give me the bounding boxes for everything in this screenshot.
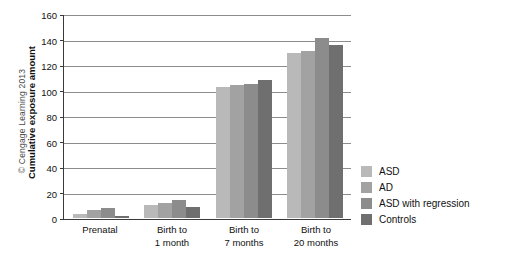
chart-plot-area: 020406080100120140160	[63, 15, 351, 220]
y-axis-tick-label: 0	[52, 214, 57, 225]
bar-group	[65, 15, 137, 218]
x-axis-label-line: Birth to	[280, 224, 352, 237]
bars-layer	[65, 15, 351, 218]
y-axis-tick-label: 60	[46, 137, 57, 148]
legend-label: ASD with regression	[379, 198, 470, 209]
x-axis-label-line: 1 month	[136, 237, 208, 250]
legend-swatch	[361, 198, 372, 209]
bar-fill	[258, 80, 272, 218]
bar-fill	[115, 216, 129, 218]
bar-fill	[315, 38, 329, 218]
bar[interactable]	[315, 38, 329, 218]
y-axis-tick	[60, 91, 64, 92]
bar-fill	[144, 205, 158, 218]
x-axis-label-line: Prenatal	[64, 224, 136, 237]
y-axis-tick	[60, 40, 64, 41]
legend-label: AD	[379, 182, 393, 193]
bar[interactable]	[158, 203, 172, 218]
bar-group	[280, 15, 352, 218]
bar[interactable]	[101, 208, 115, 218]
bar[interactable]	[186, 207, 200, 218]
y-axis-tick-label: 140	[41, 35, 57, 46]
bar[interactable]	[87, 210, 101, 218]
bar[interactable]	[230, 85, 244, 218]
legend-item[interactable]: Controls	[361, 212, 503, 227]
bar[interactable]	[73, 214, 87, 218]
legend-label: Controls	[379, 214, 416, 225]
legend-label: ASD	[379, 166, 400, 177]
x-axis-label-line: 20 months	[280, 237, 352, 250]
x-axis-category-label: Birth to1 month	[136, 224, 208, 249]
y-axis-tick	[60, 142, 64, 143]
x-axis-label-line: Birth to	[136, 224, 208, 237]
bar[interactable]	[329, 45, 343, 218]
y-axis-tick-label: 100	[41, 86, 57, 97]
bar[interactable]	[144, 205, 158, 218]
bar[interactable]	[301, 51, 315, 218]
copyright-rail: © Cengage Learning 2013	[0, 0, 22, 277]
bar[interactable]	[244, 84, 258, 218]
bar[interactable]	[115, 216, 129, 218]
bar[interactable]	[287, 53, 301, 218]
y-axis-tick	[60, 15, 64, 16]
y-axis-tick	[60, 117, 64, 118]
x-axis-category-label: Birth to20 months	[280, 224, 352, 249]
bar-fill	[172, 200, 186, 218]
legend-swatch	[361, 166, 372, 177]
bar-fill	[329, 45, 343, 218]
bar-fill	[244, 84, 258, 218]
bar-fill	[186, 207, 200, 218]
x-axis-label-line: Birth to	[208, 224, 280, 237]
bar-fill	[158, 203, 172, 218]
bar[interactable]	[216, 87, 230, 218]
x-axis-label-line: 7 months	[208, 237, 280, 250]
y-axis-tick	[60, 66, 64, 67]
legend-swatch	[361, 214, 372, 225]
x-axis-category-label: Prenatal	[64, 224, 136, 249]
y-axis-tick-label: 40	[46, 163, 57, 174]
bar[interactable]	[172, 200, 186, 218]
bar-fill	[73, 214, 87, 218]
bar[interactable]	[258, 80, 272, 218]
x-axis-labels: PrenatalBirth to1 monthBirth to7 monthsB…	[64, 224, 352, 249]
y-axis-tick-label: 20	[46, 188, 57, 199]
plot-frame: 020406080100120140160	[63, 15, 351, 220]
bar-fill	[301, 51, 315, 218]
bar-fill	[87, 210, 101, 218]
y-axis-tick-label: 160	[41, 10, 57, 21]
legend-item[interactable]: AD	[361, 180, 503, 195]
legend-swatch	[361, 182, 372, 193]
y-axis-tick-label: 120	[41, 61, 57, 72]
bar-fill	[101, 208, 115, 218]
y-axis-tick	[60, 219, 64, 220]
chart-legend: ASDADASD with regressionControls	[361, 164, 503, 228]
y-axis-tick-label: 80	[46, 112, 57, 123]
bar-fill	[216, 87, 230, 218]
bar-fill	[230, 85, 244, 218]
bar-group	[208, 15, 280, 218]
legend-item[interactable]: ASD with regression	[361, 196, 503, 211]
y-axis-title: Cumulative exposure amount	[26, 28, 37, 198]
legend-item[interactable]: ASD	[361, 164, 503, 179]
y-axis-tick	[60, 193, 64, 194]
bar-fill	[287, 53, 301, 218]
x-axis-category-label: Birth to7 months	[208, 224, 280, 249]
bar-group	[137, 15, 209, 218]
y-axis-tick	[60, 168, 64, 169]
